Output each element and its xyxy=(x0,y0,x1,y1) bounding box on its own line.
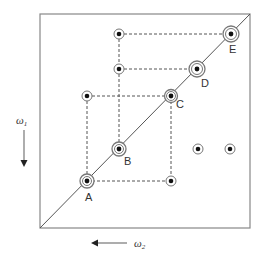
omega1-label: ω1 xyxy=(16,114,27,128)
omega2-label: ω2 xyxy=(134,237,146,251)
cross-peak xyxy=(166,176,176,186)
peak-label-a: A xyxy=(85,191,93,203)
cross-peak xyxy=(114,64,124,74)
peak-label-d: D xyxy=(201,77,209,89)
cross-peak xyxy=(114,29,124,39)
cross-peak xyxy=(193,144,203,154)
diagonal-peak-d: D xyxy=(189,61,209,89)
diagonal-peaks: ABCDE xyxy=(80,26,239,203)
diagonal-peak-a: A xyxy=(80,174,94,203)
cross-peak xyxy=(82,91,92,101)
omega1-axis: ω1 xyxy=(16,114,28,167)
diagonal-peak-c: C xyxy=(165,90,185,111)
diagonal-peak-e: E xyxy=(223,26,239,55)
peak-label-e: E xyxy=(229,43,236,55)
omega1-arrow-down-icon xyxy=(21,160,28,167)
correlation-diagram: ABCDE ω1 ω2 xyxy=(0,0,264,259)
cross-peak xyxy=(225,144,235,154)
peak-label-b: B xyxy=(124,155,131,167)
omega2-axis: ω2 xyxy=(91,237,146,251)
peak-label-c: C xyxy=(176,98,184,110)
omega2-arrow-left-icon xyxy=(91,240,98,247)
diagonal-line xyxy=(40,14,250,228)
diagonal-peak-b: B xyxy=(112,142,131,167)
